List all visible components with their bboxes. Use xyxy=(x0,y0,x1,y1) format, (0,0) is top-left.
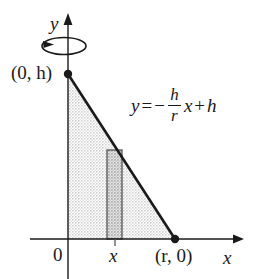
point-r-0-label: (r, 0) xyxy=(155,246,192,265)
equation-minus: − xyxy=(154,96,165,115)
x-tick-label: x xyxy=(109,246,117,265)
fraction-denominator: r xyxy=(169,107,180,125)
line-equation: y = − h r x + h xyxy=(130,86,218,125)
equation-plus: + xyxy=(194,96,205,115)
equation-equals: = xyxy=(141,96,152,115)
point-r-0-marker xyxy=(171,235,179,243)
representative-rectangle xyxy=(107,150,122,239)
point-0-h-label: (0, h) xyxy=(11,63,52,82)
y-axis-label: y xyxy=(50,14,58,33)
x-axis-label: x xyxy=(223,248,231,267)
fraction-numerator: h xyxy=(168,86,181,104)
y-axis-arrowhead-icon xyxy=(64,13,73,25)
revolution-arrowhead-icon xyxy=(43,41,54,48)
equation-variable: x xyxy=(184,96,192,115)
point-0-h-marker xyxy=(64,70,72,78)
equation-constant: h xyxy=(207,96,217,115)
x-axis-arrowhead-icon xyxy=(233,235,244,244)
cone-volume-diagram: y x 0 x (0, h) (r, 0) y = − h r x + h xyxy=(0,0,267,279)
origin-label: 0 xyxy=(53,245,63,264)
diagram-canvas xyxy=(0,0,267,279)
equation-fraction: h r xyxy=(168,86,181,125)
equation-lhs: y xyxy=(131,96,139,115)
